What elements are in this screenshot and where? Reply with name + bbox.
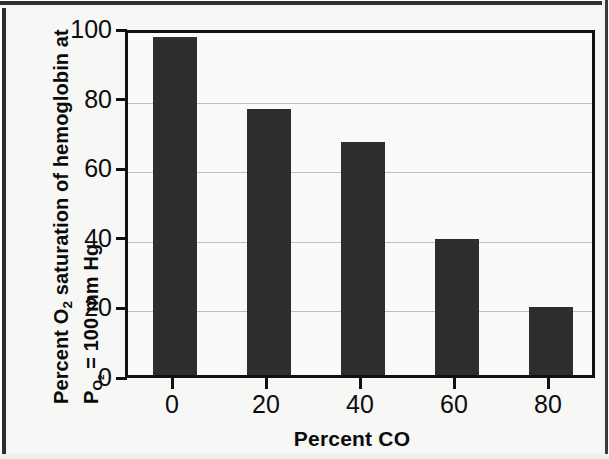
- bar-40: [341, 142, 385, 375]
- plot-inner: [128, 33, 592, 375]
- figure-container: Percent O2 saturation of hemoglobin at P…: [0, 0, 609, 459]
- page-border-bottom: [0, 454, 609, 459]
- x-tick-label-20: 20: [236, 392, 296, 417]
- x-tick-0: [171, 378, 174, 389]
- y-tick-label-40: 40: [60, 226, 112, 251]
- bar-20: [247, 109, 291, 375]
- y-tick-label-80: 80: [60, 87, 112, 112]
- page-border-right: [602, 0, 609, 459]
- x-tick-80: [547, 378, 550, 389]
- y-tick-20: [116, 307, 127, 310]
- x-tick-label-60: 60: [424, 392, 484, 417]
- bar-60: [435, 239, 479, 375]
- y-tick-label-20: 20: [60, 295, 112, 320]
- x-tick-label-0: 0: [142, 392, 202, 417]
- gridline: [128, 103, 592, 104]
- y-tick-60: [116, 168, 127, 171]
- x-tick-60: [453, 378, 456, 389]
- bar-80: [529, 307, 573, 375]
- y-axis-label: Percent O2 saturation of hemoglobin at P…: [8, 0, 126, 410]
- bar-0: [153, 37, 197, 375]
- plot-area: [125, 30, 595, 378]
- y-tick-label-100: 100: [60, 17, 112, 42]
- x-tick-20: [265, 378, 268, 389]
- y-axis-label-line-1: Percent O2 saturation of hemoglobin at: [50, 29, 75, 404]
- y-tick-0: [116, 377, 127, 380]
- x-axis-label: Percent CO: [0, 427, 609, 451]
- y-tick-label-0: 0: [60, 365, 112, 390]
- x-tick-label-80: 80: [518, 392, 578, 417]
- y-tick-40: [116, 237, 127, 240]
- x-tick-40: [359, 378, 362, 389]
- y-tick-100: [116, 29, 127, 32]
- y-axis-label-p: P: [80, 391, 102, 404]
- y-tick-label-60: 60: [60, 156, 112, 181]
- x-tick-label-40: 40: [330, 392, 390, 417]
- y-tick-80: [116, 98, 127, 101]
